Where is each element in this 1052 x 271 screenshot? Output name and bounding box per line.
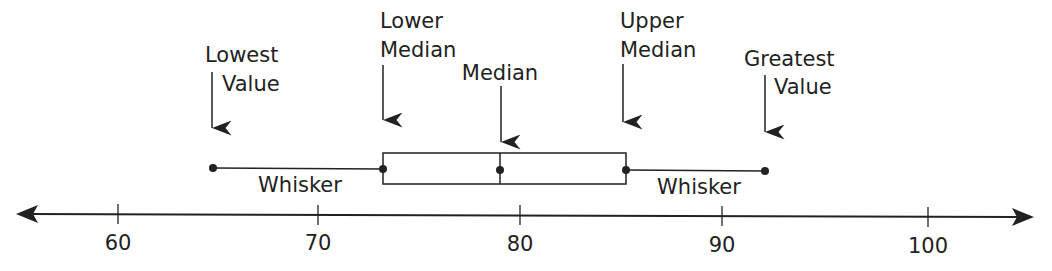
box bbox=[383, 153, 626, 184]
lower-label-line1: Lower bbox=[380, 9, 443, 33]
lowest-value-point bbox=[209, 164, 217, 172]
lower-median-point bbox=[379, 165, 387, 173]
tick-label-60: 60 bbox=[105, 231, 132, 255]
lowest-label-line1: Lowest bbox=[205, 43, 278, 67]
left-whisker bbox=[213, 168, 383, 169]
upper-label-line1: Upper bbox=[620, 9, 684, 33]
tick-label-100: 100 bbox=[908, 234, 948, 258]
lowest-label-line2: Value bbox=[222, 72, 280, 96]
greatest-label-line2: Value bbox=[774, 75, 832, 99]
box-plot-diagram: 60 70 80 90 100 Whisker Whisker Lowest V… bbox=[0, 0, 1052, 271]
lower-label-line2: Median bbox=[380, 38, 456, 62]
box-plot: Whisker Whisker bbox=[209, 153, 769, 199]
greatest-label-line1: Greatest bbox=[744, 47, 835, 71]
upper-label-line2: Median bbox=[620, 38, 696, 62]
tick-label-70: 70 bbox=[305, 231, 332, 255]
greatest-value-point bbox=[761, 167, 769, 175]
tick-label-80: 80 bbox=[507, 232, 534, 256]
tick-label-90: 90 bbox=[709, 233, 736, 257]
upper-median-point bbox=[622, 166, 630, 174]
whisker-label-right: Whisker bbox=[657, 175, 741, 199]
whisker-label-left: Whisker bbox=[258, 173, 342, 197]
number-line: 60 70 80 90 100 bbox=[16, 204, 1034, 258]
median-point bbox=[496, 166, 504, 174]
median-label: Median bbox=[462, 61, 538, 85]
annotations: Lowest Value Lower Median Median Upper M… bbox=[205, 9, 835, 142]
right-whisker bbox=[626, 170, 765, 171]
